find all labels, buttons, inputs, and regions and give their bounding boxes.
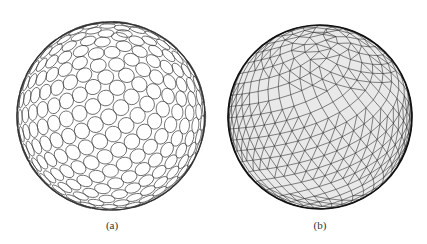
panel-a-circle-packed-sphere: (a) bbox=[0, 0, 213, 244]
triangulated-sphere-graphic bbox=[213, 0, 427, 244]
circle-packed-sphere-graphic bbox=[0, 0, 213, 244]
panel-a-label: (a) bbox=[92, 219, 132, 231]
panel-b-triangulated-sphere: (b) bbox=[213, 0, 427, 244]
panel-b-label: (b) bbox=[300, 219, 340, 231]
